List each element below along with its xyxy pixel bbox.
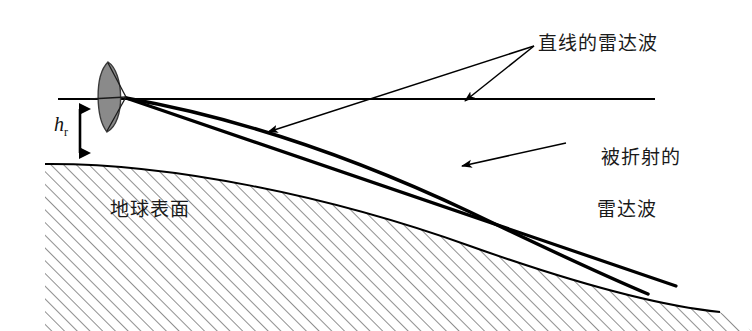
label-refracted-radar-wave: 被折射的 雷达波	[573, 118, 681, 274]
parabolic-dish-antenna	[90, 62, 126, 132]
label-antenna-height-subscript: r	[64, 125, 68, 139]
label-earth-surface: 地球表面	[110, 196, 190, 222]
label-refracted-radar-wave-line1: 被折射的	[601, 146, 681, 168]
label-antenna-height-symbol: h	[54, 113, 64, 135]
diagram-canvas: 直线的雷达波 被折射的 雷达波 地球表面 hr	[0, 0, 752, 331]
label-antenna-height: hr	[54, 113, 68, 140]
label-straight-line-radar-wave: 直线的雷达波	[538, 30, 658, 56]
label-refracted-radar-wave-line2: 雷达波	[573, 196, 681, 222]
leader-line-to-horizon	[465, 46, 534, 101]
leader-line-to-straight-ray	[268, 46, 534, 132]
leader-line-to-refracted-curve	[462, 143, 566, 166]
